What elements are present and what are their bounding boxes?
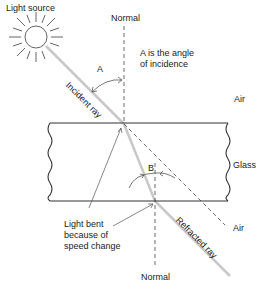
light-source-label: Light source [6,3,55,14]
bent-label-line2: because of [64,230,108,241]
angle-a-desc-line2: of incidence [140,59,188,70]
bent-label-line3: speed change [64,241,121,252]
air-bottom-label: Air [233,223,244,234]
normal-bottom-label: Normal [141,272,170,283]
angle-a-label: A [97,64,103,75]
glass-label: Glass [233,160,256,171]
angle-b-label: B [148,163,154,174]
refraction-diagram [0,0,265,291]
incident-extension-dashed [124,124,225,225]
incident-ray [46,46,124,124]
angle-a-arc [92,77,122,92]
label-pointers [89,128,153,226]
bent-label-line1: Light bent [64,219,104,230]
normal-top-label: Normal [111,13,140,24]
angle-a-desc-line1: A is the angle [140,48,194,59]
air-top-label: Air [234,94,245,105]
